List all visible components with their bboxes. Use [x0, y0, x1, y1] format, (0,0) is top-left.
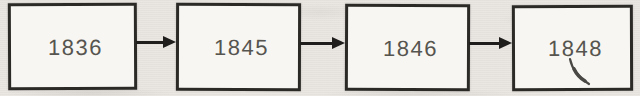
flow-arrow-icon	[300, 36, 345, 50]
node-label: 1836	[48, 34, 103, 60]
node-label: 1846	[383, 35, 438, 61]
flow-arrow-icon	[469, 36, 512, 50]
flowchart-canvas: 1836 1845 1846 1848	[0, 0, 640, 96]
flow-arrow-icon	[136, 35, 176, 49]
flow-node-1836: 1836	[8, 3, 137, 91]
arrow-shaft	[300, 42, 332, 45]
flow-node-1845: 1845	[176, 3, 301, 91]
arrow-head	[163, 36, 176, 48]
flow-node-1846: 1846	[345, 4, 470, 91]
arrow-shaft	[136, 41, 163, 44]
arrow-shaft	[469, 42, 499, 45]
arrow-head	[332, 37, 345, 49]
node-label: 1848	[548, 36, 603, 62]
flow-node-1848: 1848	[512, 5, 633, 91]
arrow-head	[499, 37, 512, 49]
node-label: 1845	[214, 35, 269, 61]
